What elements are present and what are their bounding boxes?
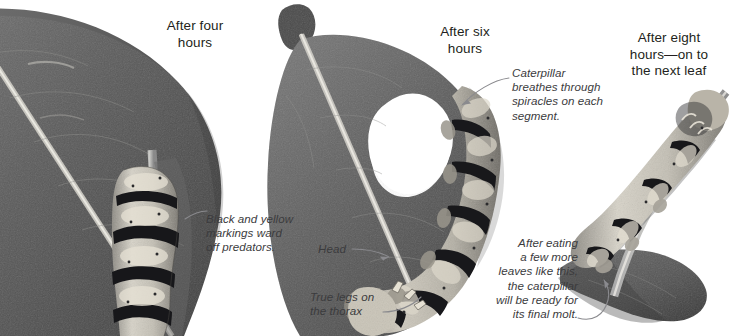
- caterpillar-panel-one: [112, 158, 192, 336]
- annotation-final-molt-line-3: leaves like this,: [486, 264, 578, 278]
- annotation-final-molt-line-1: After eating: [486, 236, 578, 250]
- annotation-markings-line-1: Black and yellow: [206, 212, 310, 226]
- annotation-spiracles-line-4: segment.: [512, 109, 624, 123]
- annotation-true-legs: True legs on the thorax: [310, 290, 420, 318]
- heading-eight-hours-line-2: hours—on to: [610, 47, 728, 64]
- annotation-head: Head: [318, 242, 368, 256]
- annotation-spiracles-line-2: breathes through: [512, 80, 624, 94]
- annotation-markings-line-2: markings ward: [206, 226, 310, 240]
- heading-six-hours-line-1: After six: [400, 24, 530, 41]
- annotation-true-legs-line-1: True legs on: [310, 290, 420, 304]
- photo-panel-eight-hours: [558, 90, 729, 323]
- heading-four-hours-line-1: After four: [130, 18, 260, 35]
- annotation-final-molt-line-5: will be ready for: [486, 293, 578, 307]
- annotation-final-molt-line-4: the caterpillar: [486, 279, 578, 293]
- figure-canvas: After four hours After six hours After e…: [0, 0, 732, 336]
- heading-eight-hours-line-3: the next leaf: [610, 63, 728, 80]
- annotation-head-line-1: Head: [318, 242, 368, 256]
- annotation-markings-line-3: off predators.: [206, 240, 310, 254]
- heading-eight-hours: After eight hours—on to the next leaf: [610, 30, 728, 80]
- heading-six-hours-line-2: hours: [400, 41, 530, 58]
- heading-eight-hours-line-1: After eight: [610, 30, 728, 47]
- annotation-final-molt-line-2: a few more: [486, 250, 578, 264]
- annotation-markings: Black and yellow markings ward off preda…: [206, 212, 310, 255]
- annotation-spiracles-line-1: Caterpillar: [512, 66, 624, 80]
- annotation-spiracles: Caterpillar breathes through spiracles o…: [512, 66, 624, 123]
- annotation-final-molt-line-6: its final molt.: [486, 307, 578, 321]
- annotation-true-legs-line-2: the thorax: [310, 304, 420, 318]
- heading-four-hours-line-2: hours: [130, 35, 260, 52]
- heading-four-hours: After four hours: [130, 18, 260, 51]
- annotation-spiracles-line-3: spiracles on each: [512, 94, 624, 108]
- annotation-final-molt: After eating a few more leaves like this…: [486, 236, 578, 321]
- heading-six-hours: After six hours: [400, 24, 530, 57]
